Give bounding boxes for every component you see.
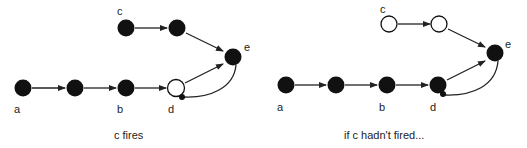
label-e: e (505, 38, 511, 50)
inhibitor-edge-e-d (445, 61, 498, 95)
label-a: a (14, 103, 21, 115)
edge-c2-e (186, 33, 223, 51)
node-b (379, 77, 396, 94)
node-a (278, 77, 295, 94)
label-b: b (117, 103, 123, 115)
petri-diagram: a b c d e c fires a b c d e if c hadn't … (0, 0, 527, 148)
label-a: a (277, 101, 284, 113)
label-c: c (117, 5, 123, 17)
label-d: d (430, 101, 436, 113)
label-e: e (244, 41, 250, 53)
caption-left: c fires (114, 129, 144, 141)
label-d: d (168, 103, 174, 115)
node-a2 (67, 80, 84, 97)
node-b (118, 80, 135, 97)
node-e (225, 49, 242, 66)
edge-c2-e (448, 29, 485, 47)
node-d (430, 77, 447, 94)
panel-c-hadnt-fired: a b c d e if c hadn't fired... (277, 3, 511, 141)
node-a2 (328, 77, 345, 94)
node-c (118, 20, 135, 37)
caption-right: if c hadn't fired... (344, 129, 424, 141)
node-c (381, 16, 397, 32)
node-a (15, 80, 32, 97)
edge-d-e (185, 64, 223, 83)
node-c2 (431, 16, 447, 32)
label-c: c (380, 3, 386, 15)
node-e (487, 45, 504, 62)
label-b: b (379, 101, 385, 113)
node-c2 (169, 20, 186, 37)
panel-c-fires: a b c d e c fires (14, 5, 250, 141)
node-d (168, 80, 185, 97)
edge-d-e (447, 61, 485, 80)
